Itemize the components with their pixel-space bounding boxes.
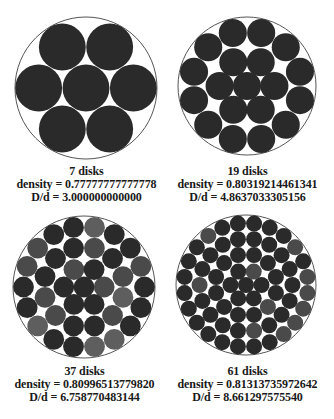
disk (295, 301, 311, 317)
disk (261, 237, 277, 253)
disk (200, 228, 216, 244)
disk (215, 317, 231, 333)
disk (181, 253, 197, 269)
disk (246, 323, 262, 339)
disk (246, 231, 262, 247)
disk (299, 285, 315, 301)
disk (202, 307, 218, 323)
disk (230, 290, 246, 306)
disk (181, 301, 197, 317)
disk (189, 239, 205, 255)
disk (287, 315, 303, 331)
disk (299, 269, 315, 285)
disk (284, 277, 300, 293)
disk (177, 269, 193, 285)
disk (230, 247, 246, 263)
disk (282, 261, 298, 277)
disk (268, 269, 284, 285)
disk (276, 326, 292, 342)
disk (216, 299, 232, 315)
disk (246, 264, 262, 280)
disk (208, 285, 224, 301)
disk (230, 323, 246, 339)
disk (268, 285, 284, 301)
disk (295, 253, 311, 269)
disk (214, 334, 230, 350)
disk (260, 299, 276, 315)
disk (194, 261, 210, 277)
disk (238, 277, 254, 293)
disk (262, 334, 278, 350)
packing-diagram-61-disks (0, 0, 334, 419)
disk (194, 293, 210, 309)
disk (208, 269, 224, 285)
disk (246, 290, 262, 306)
disk (230, 231, 246, 247)
disk (202, 247, 218, 263)
disk (214, 220, 230, 236)
disk (192, 277, 208, 293)
disk (282, 293, 298, 309)
diameter-ratio-value: D/d = 8.661297575540 (164, 391, 331, 404)
disk (287, 239, 303, 255)
disk (274, 307, 290, 323)
disk (230, 307, 246, 323)
disk (276, 228, 292, 244)
disk (230, 264, 246, 280)
disk (246, 307, 262, 323)
disk (246, 338, 262, 354)
disk (230, 338, 246, 354)
disk (274, 247, 290, 263)
disk (253, 277, 269, 293)
disk (200, 326, 216, 342)
disk (216, 255, 232, 271)
disk (230, 216, 246, 232)
disk (261, 317, 277, 333)
disk (215, 237, 231, 253)
disk (189, 315, 205, 331)
disk (223, 277, 239, 293)
caption-61-disks: 61 disks density = 0.81313735972642 D/d … (164, 365, 331, 404)
disk (177, 285, 193, 301)
disk (246, 216, 262, 232)
disk (262, 220, 278, 236)
disk (246, 247, 262, 263)
disk (260, 255, 276, 271)
